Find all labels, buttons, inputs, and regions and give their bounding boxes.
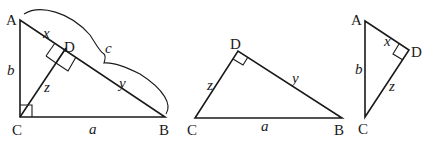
geometry-diagram: A C B D b a c x y z D C B z y a A D C b …	[0, 0, 435, 147]
right-angle-marker-d	[393, 44, 403, 60]
side-a-label: a	[261, 118, 269, 134]
triangle-abc	[20, 20, 165, 117]
vertex-d-label: D	[64, 39, 75, 55]
right-angle-marker-d-top	[46, 43, 55, 56]
triangle-cdb-figure: D C B z y a	[187, 36, 344, 138]
side-c-label: c	[105, 40, 112, 56]
triangle-adc-figure: A D C b x z	[351, 12, 422, 137]
side-b-label: b	[7, 62, 15, 78]
side-z-label: z	[388, 78, 395, 94]
side-z-label: z	[43, 79, 50, 95]
side-y-label: y	[117, 75, 126, 91]
vertex-c-label: C	[12, 122, 22, 138]
side-z-label: z	[206, 77, 213, 93]
side-a-label: a	[89, 121, 97, 137]
vertex-a-label: A	[6, 12, 17, 28]
vertex-d-label: D	[411, 44, 422, 60]
vertex-b-label: B	[334, 122, 344, 138]
side-b-label: b	[355, 61, 363, 77]
vertex-b-label: B	[159, 122, 169, 138]
right-angle-marker-d-left	[46, 48, 66, 63]
side-x-label: x	[42, 25, 50, 41]
side-y-label: y	[290, 70, 299, 86]
vertex-d-label: D	[230, 36, 241, 52]
vertex-a-label: A	[351, 12, 362, 28]
triangle-cdb	[195, 51, 342, 118]
triangle-abc-figure: A C B D b a c x y z	[6, 10, 169, 138]
side-x-label: x	[383, 33, 391, 49]
vertex-c-label: C	[187, 122, 197, 138]
right-angle-marker-d	[233, 57, 248, 65]
vertex-c-label: C	[358, 121, 368, 137]
